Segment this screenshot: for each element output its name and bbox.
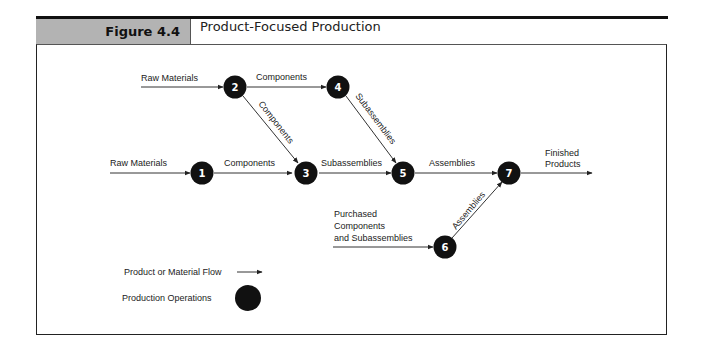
node-5: 5 [392, 162, 415, 185]
legend-flow-label: Product or Material Flow [124, 267, 222, 277]
node-2: 2 [224, 76, 247, 99]
label-assemblies-6-7: Assemblies [450, 189, 488, 231]
svg-text:3: 3 [303, 168, 310, 179]
label-components-2-4: Components [256, 72, 308, 82]
label-subassemblies-4-5: Subassemblies [353, 91, 398, 146]
label-and-subassemblies: and Subassemblies [334, 233, 413, 243]
product-flow-diagram: Raw Materials Components Components Suba… [0, 0, 701, 357]
label-components: Components [334, 221, 386, 231]
node-7: 7 [498, 162, 521, 185]
svg-text:4: 4 [335, 82, 342, 93]
label-subassemblies-3-5: Subassemblies [321, 158, 383, 168]
svg-text:1: 1 [199, 168, 206, 179]
legend-operations-label: Production Operations [122, 293, 212, 303]
svg-text:5: 5 [400, 168, 407, 179]
label-raw-materials-bottom: Raw Materials [110, 158, 168, 168]
label-components-2-3: Components [256, 99, 296, 146]
node-3: 3 [295, 162, 318, 185]
label-raw-materials-top: Raw Materials [141, 73, 199, 83]
label-purchased: Purchased [334, 209, 377, 219]
node-4: 4 [327, 76, 350, 99]
node-6: 6 [434, 236, 457, 259]
legend-operation-circle [235, 285, 261, 311]
label-components-1-3: Components [224, 158, 276, 168]
svg-text:2: 2 [232, 82, 239, 93]
label-assemblies-5-7: Assemblies [429, 158, 476, 168]
label-finished: Finished [545, 148, 579, 158]
label-products: Products [545, 159, 581, 169]
svg-text:7: 7 [506, 168, 513, 179]
node-1: 1 [191, 162, 214, 185]
svg-text:6: 6 [442, 242, 449, 253]
edge-6-to-7 [452, 182, 502, 238]
